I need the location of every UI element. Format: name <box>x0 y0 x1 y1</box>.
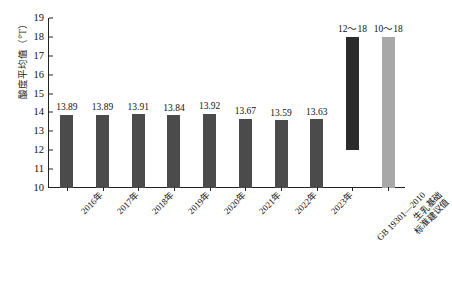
y-axis-tick-label: 16 <box>34 69 50 80</box>
bar-value-label: 13.59 <box>270 109 291 119</box>
x-axis-label-line: 2018年 <box>150 190 176 216</box>
x-axis-label-8: 2023年 <box>329 190 355 216</box>
y-axis-tick-label: 12 <box>34 145 50 156</box>
bar-value-label: 13.84 <box>163 104 184 114</box>
bars-layer: 13.8913.8913.9113.8413.9213.6713.5913.63… <box>49 18 405 187</box>
y-axis-tick-label: 17 <box>34 51 50 62</box>
bar-6[interactable]: 13.67 <box>239 119 252 188</box>
x-axis-labels: 2016年2017年2018年2019年2020年2021年2022年2023年… <box>48 190 405 282</box>
bar-value-label: 13.92 <box>199 102 220 112</box>
bar-1[interactable]: 13.89 <box>60 115 73 188</box>
x-axis-label-2: 2017年 <box>114 190 140 216</box>
bar-value-label: 10～18 <box>374 25 403 35</box>
x-axis-label-1: 2016年 <box>79 190 105 216</box>
y-axis-tick-label: 18 <box>34 32 50 43</box>
x-axis-label-line: 2023年 <box>329 190 355 216</box>
y-axis-title: 酸度平均值（°T） <box>15 0 29 124</box>
y-axis-tick-label: 19 <box>34 13 50 24</box>
x-axis-label-line: 2022年 <box>293 190 319 216</box>
x-axis-label-line: 2017年 <box>114 190 140 216</box>
x-axis-label-line: 2020年 <box>222 190 248 216</box>
bar-value-label: 13.67 <box>235 107 256 117</box>
bar-value-label: 13.89 <box>56 103 77 113</box>
bar-3[interactable]: 13.91 <box>132 114 145 188</box>
y-axis-tick-label: 14 <box>34 107 50 118</box>
bar-value-label: 13.91 <box>128 103 149 113</box>
bar-10[interactable]: 10～18 <box>382 37 395 188</box>
bar-value-label: 12～18 <box>338 25 367 35</box>
bar-value-label: 13.63 <box>306 108 327 118</box>
y-axis-tick-label: 13 <box>34 126 50 137</box>
y-axis-tick-label: 15 <box>34 88 50 99</box>
bar-9[interactable]: 12～18 <box>346 37 359 150</box>
plot-area: 10111213141516171819 13.8913.8913.9113.8… <box>48 18 405 188</box>
x-axis-label-7: 2022年 <box>293 190 319 216</box>
x-axis-label-6: 2021年 <box>257 190 283 216</box>
bar-2[interactable]: 13.89 <box>96 115 109 188</box>
bar-5[interactable]: 13.92 <box>203 114 216 188</box>
x-axis-label-3: 2018年 <box>150 190 176 216</box>
x-axis-label-line: 2019年 <box>186 190 212 216</box>
y-axis-tick-label: 11 <box>34 164 49 175</box>
bar-value-label: 13.89 <box>92 103 113 113</box>
bar-7[interactable]: 13.59 <box>275 120 288 188</box>
x-axis-label-line: 2016年 <box>79 190 105 216</box>
x-axis-label-4: 2019年 <box>186 190 212 216</box>
bar-4[interactable]: 13.84 <box>167 115 180 188</box>
bar-8[interactable]: 13.63 <box>310 119 323 188</box>
x-axis-label-line: 2021年 <box>257 190 283 216</box>
x-axis-label-5: 2020年 <box>222 190 248 216</box>
y-axis-tick-label: 10 <box>34 183 50 194</box>
